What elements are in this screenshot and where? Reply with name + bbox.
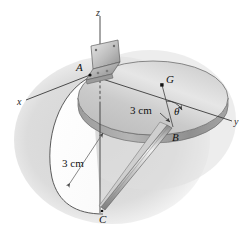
point-label-b: B <box>172 132 179 143</box>
mechanics-figure: z x y A G B C 3 cm 3 cm θ <box>0 0 250 237</box>
point-a-marker <box>88 73 91 76</box>
figure-canvas <box>0 0 250 237</box>
dimension-radius: 3 cm <box>130 105 152 116</box>
point-c-marker <box>101 210 104 213</box>
axis-label-x: x <box>17 97 21 107</box>
point-label-a: A <box>76 62 83 73</box>
axis-label-y: y <box>234 117 238 127</box>
axis-label-z: z <box>96 8 100 18</box>
point-label-g: G <box>166 74 174 85</box>
point-g-marker <box>160 83 163 86</box>
angle-label-theta: θ <box>174 106 179 117</box>
point-label-c: C <box>99 214 106 225</box>
dimension-rod-length: 3 cm <box>62 158 84 169</box>
